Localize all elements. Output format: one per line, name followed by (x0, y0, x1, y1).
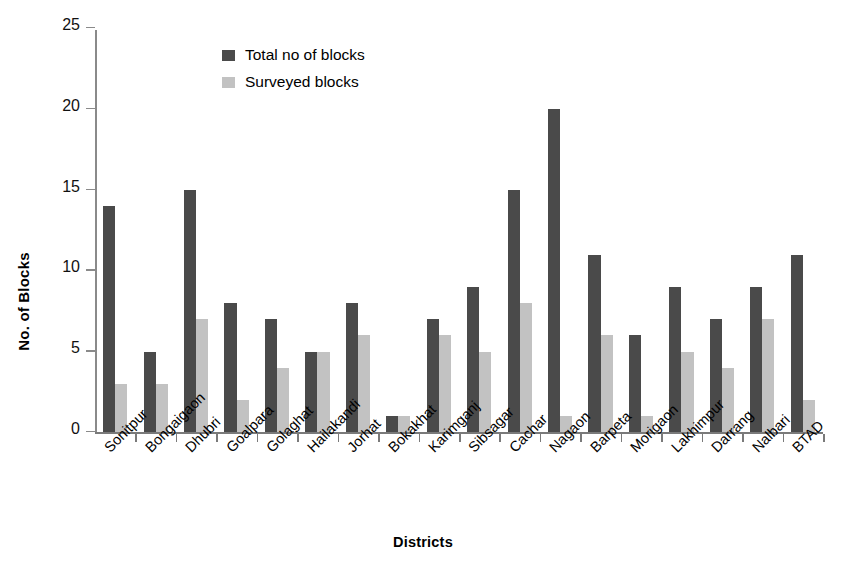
bar (588, 255, 600, 433)
bar-group (508, 30, 532, 432)
y-axis-tick: 20 (86, 108, 95, 110)
bar (224, 303, 236, 432)
x-axis-tick (419, 434, 421, 442)
x-axis-tick (702, 434, 704, 442)
bar (601, 335, 613, 432)
legend-swatch (222, 50, 235, 61)
x-axis-tick (135, 434, 137, 442)
x-axis-tick (499, 434, 501, 442)
legend: Total no of blocksSurveyed blocks (222, 46, 365, 100)
y-axis-tick-label: 20 (62, 97, 80, 115)
bar-group (750, 30, 774, 432)
bar-group (427, 30, 451, 432)
bar-group (588, 30, 612, 432)
bar (103, 206, 115, 432)
legend-label: Surveyed blocks (245, 73, 359, 91)
y-axis-tick-label: 0 (71, 420, 80, 438)
x-axis-tick (176, 434, 178, 442)
y-axis-tick: 0 (86, 431, 95, 433)
x-axis-tick (297, 434, 299, 442)
bar (508, 190, 520, 432)
bar-group (103, 30, 127, 432)
y-axis-tick-label: 5 (71, 339, 80, 357)
bar-group (548, 30, 572, 432)
bar (762, 319, 774, 432)
legend-item: Total no of blocks (222, 46, 365, 64)
y-axis-tick: 25 (86, 27, 95, 29)
legend-item: Surveyed blocks (222, 73, 365, 91)
x-axis-title: Districts (0, 534, 846, 550)
bar-chart: No. of Blocks 0510152025 SonitpurBongaig… (0, 0, 846, 572)
x-axis-tick (257, 434, 259, 442)
bar-group (629, 30, 653, 432)
legend-label: Total no of blocks (245, 46, 365, 64)
bar-group (467, 30, 491, 432)
y-axis-line (95, 30, 97, 434)
x-axis-tick (378, 434, 380, 442)
x-axis-tick (742, 434, 744, 442)
y-axis-tick: 5 (86, 350, 95, 352)
x-axis-tick (459, 434, 461, 442)
y-axis-tick: 15 (86, 189, 95, 191)
x-axis-tick (540, 434, 542, 442)
x-axis-tick (338, 434, 340, 442)
x-axis-tick (580, 434, 582, 442)
bar-group (710, 30, 734, 432)
y-axis-tick-label: 25 (62, 16, 80, 34)
bar-group (669, 30, 693, 432)
y-axis-tick: 10 (86, 269, 95, 271)
y-axis-tick-label: 10 (62, 258, 80, 276)
bar-group (144, 30, 168, 432)
bar (196, 319, 208, 432)
x-axis-tick (621, 434, 623, 442)
y-axis-title: No. of Blocks (15, 232, 32, 372)
x-axis-tick (216, 434, 218, 442)
plot-area: 0510152025 (95, 30, 823, 434)
x-axis-tick (661, 434, 663, 442)
x-axis-tick (783, 434, 785, 442)
bar-group (386, 30, 410, 432)
x-axis-tick (823, 434, 825, 442)
y-axis-tick-label: 15 (62, 178, 80, 196)
bar (439, 335, 451, 432)
bar-group (184, 30, 208, 432)
legend-swatch (222, 77, 235, 88)
caption-remnant (28, 556, 828, 570)
bar (750, 287, 762, 432)
bar (520, 303, 532, 432)
bar-group (791, 30, 815, 432)
bar (548, 109, 560, 432)
bar (791, 255, 803, 433)
bar (386, 416, 398, 432)
